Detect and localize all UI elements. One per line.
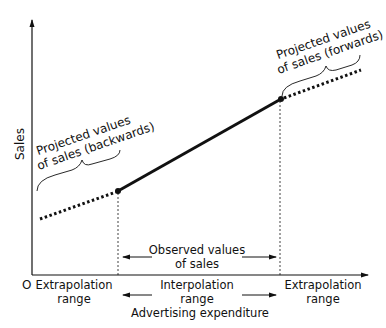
observed-sales-line [118,99,281,191]
backwards-label: Projected values of sales (backwards) [31,106,157,173]
projected-backwards-line [40,192,116,219]
right-range-label-2: range [306,292,339,306]
y-axis-label: Sales [13,128,27,160]
observed-label-2: of sales [175,257,219,271]
x-axis-label: Advertising expenditure [131,306,269,320]
projected-forwards-line [284,70,361,98]
origin-label: O [22,278,31,292]
forwards-label: Projected values of sales (forwards) [271,14,385,77]
middle-range-label-2: range [180,292,213,306]
middle-range-label-1: Interpolation [160,278,234,292]
right-range-label-1: Extrapolation [285,278,362,292]
left-range-label-2: range [57,292,90,306]
observed-end-point [278,96,284,102]
left-range-label-1: Extrapolation [36,278,113,292]
observed-label-1: Observed values [149,243,245,257]
extrapolation-diagram: Sales O Advertising expenditure Projecte… [0,0,386,328]
